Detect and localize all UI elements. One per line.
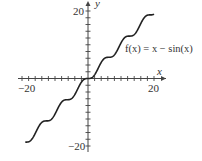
x-tick-label-min: −20 bbox=[18, 82, 36, 94]
function-label: f(x) = x − sin(x) bbox=[125, 43, 193, 55]
y-axis-label: y bbox=[94, 0, 100, 9]
axes bbox=[18, 1, 166, 152]
x-tick-label-max: 20 bbox=[148, 82, 160, 94]
y-tick-label-max: 20 bbox=[73, 5, 85, 17]
x-axis-label: x bbox=[156, 65, 162, 77]
function-plot: −20 20 20 −20 x y f(x) = x − sin(x) bbox=[0, 0, 202, 161]
y-tick-label-min: −20 bbox=[68, 140, 86, 152]
